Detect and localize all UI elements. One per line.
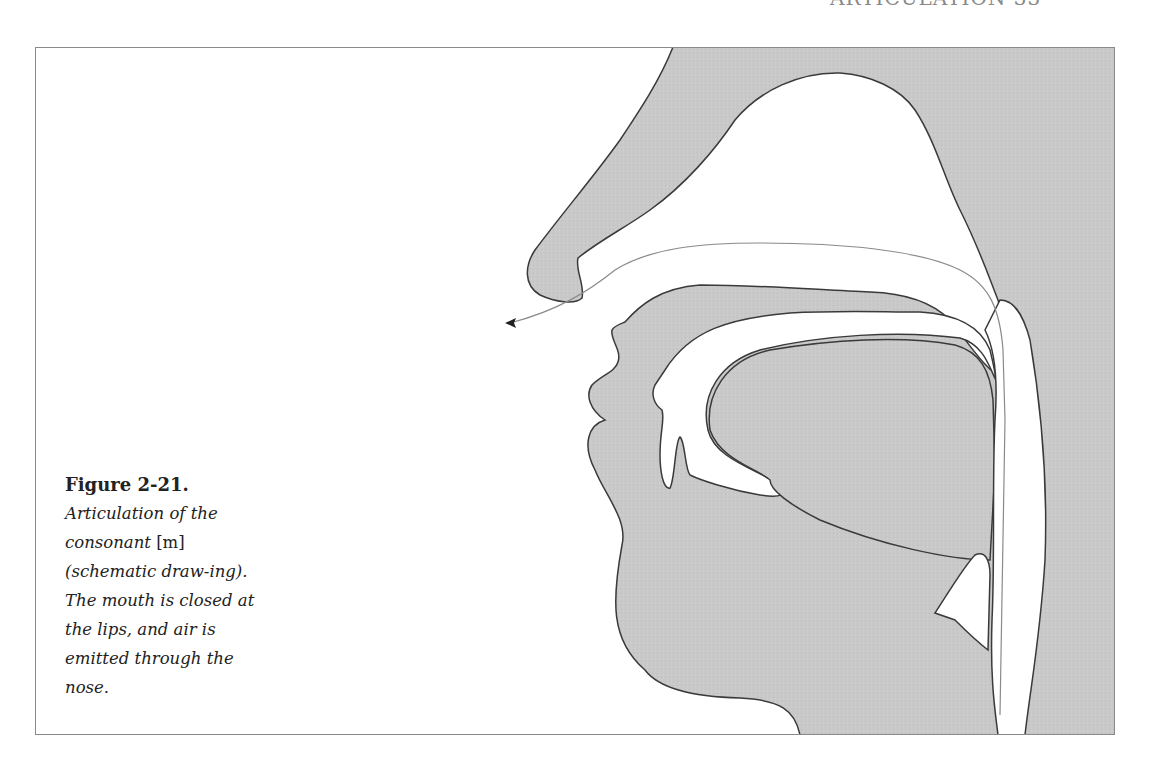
caption-phone: [m] — [156, 533, 185, 552]
caption-text-2: (schematic draw-ing). The mouth is close… — [65, 562, 254, 697]
caption-text-1: Articulation of the consonant — [65, 504, 218, 552]
figure-label: Figure 2-21. — [65, 470, 275, 499]
airflow-arrow-icon — [505, 318, 516, 328]
figure-caption: Figure 2-21. Articulation of the consona… — [65, 470, 275, 702]
